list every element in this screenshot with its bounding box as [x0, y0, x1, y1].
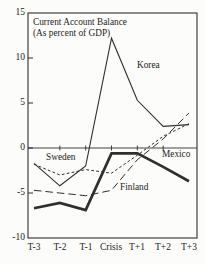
- series-label-finland: Finland: [120, 182, 148, 193]
- y-tick-label-10: 10: [0, 52, 25, 63]
- y-tick-label-neg5: -5: [0, 187, 25, 198]
- y-tick-label-15: 15: [0, 7, 25, 18]
- chart-title-line1: Current Account Balance: [33, 17, 127, 28]
- chart-canvas: [0, 0, 206, 264]
- x-tick-label-t3: T+3: [174, 242, 204, 253]
- series-label-korea: Korea: [137, 60, 160, 71]
- y-tick-label-0: 0: [0, 142, 25, 153]
- series-label-sweden: Sweden: [46, 152, 75, 163]
- y-tick-label-5: 5: [0, 97, 25, 108]
- current-account-balance-chart: Current Account Balance (As percent of G…: [0, 0, 206, 264]
- series-label-mexico: Mexico: [162, 149, 190, 160]
- chart-title-line2: (As percent of GDP): [33, 28, 110, 39]
- series-line-korea: [34, 38, 189, 186]
